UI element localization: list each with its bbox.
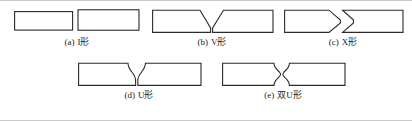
caption-double-u-groove: (e)双U形: [220, 90, 346, 101]
weld-joint-x-groove-icon: [284, 9, 404, 35]
caption-x-groove: (c)X形: [282, 37, 404, 48]
caption-tag-c: (c): [329, 37, 339, 47]
caption-label-a: I形: [78, 37, 90, 47]
weld-joint-i-groove-icon: [14, 9, 140, 33]
weld-joint-u-groove-icon: [78, 62, 202, 88]
caption-tag-d: (d): [125, 90, 136, 100]
figure-top-rule: [0, 0, 412, 1]
figure-bottom-rule: [0, 120, 412, 121]
caption-i-groove: (a)I形: [14, 37, 140, 48]
caption-label-c: X形: [342, 37, 358, 47]
caption-tag-a: (a): [65, 37, 75, 47]
caption-label-e: 双U形: [277, 90, 302, 100]
weld-joint-double-u-groove-icon: [222, 62, 346, 88]
caption-u-groove: (d)U形: [76, 90, 202, 101]
weld-joint-v-groove-icon: [152, 9, 274, 35]
caption-v-groove: (b)V形: [150, 37, 274, 48]
caption-tag-b: (b): [198, 37, 209, 47]
caption-label-d: U形: [138, 90, 154, 100]
caption-label-b: V形: [211, 37, 227, 47]
caption-tag-e: (e): [264, 90, 274, 100]
weld-groove-types-figure: (a)I形 (b)V形 (c)X形 (d)U形: [0, 0, 412, 121]
